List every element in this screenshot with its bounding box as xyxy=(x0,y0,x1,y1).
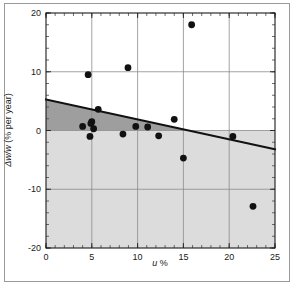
y-tick-label: 20 xyxy=(13,8,41,18)
data-point xyxy=(132,123,139,130)
y-axis-label: Δw/w (% per year) xyxy=(3,65,13,195)
x-tick-label: 25 xyxy=(270,252,280,262)
data-point xyxy=(171,116,178,123)
data-point xyxy=(144,124,151,131)
data-point xyxy=(188,21,195,28)
data-point xyxy=(155,132,162,139)
x-axis-label: u % xyxy=(152,258,168,268)
x-tick-label: 20 xyxy=(224,252,234,262)
data-point xyxy=(90,125,97,132)
x-tick-label: 5 xyxy=(89,252,94,262)
scatter-chart: Δw/w (% per year) u % 051015202520100-10… xyxy=(0,0,296,287)
data-point xyxy=(229,133,236,140)
data-point xyxy=(79,123,86,130)
data-point xyxy=(85,71,92,78)
x-tick-label: 15 xyxy=(178,252,188,262)
x-tick-label: 10 xyxy=(133,252,143,262)
data-point xyxy=(120,131,127,138)
data-point xyxy=(88,118,95,125)
y-tick-label: -20 xyxy=(13,243,41,253)
y-tick-label: -10 xyxy=(13,184,41,194)
data-point xyxy=(95,106,102,113)
data-point xyxy=(180,155,187,162)
data-point xyxy=(87,133,94,140)
data-point xyxy=(250,203,257,210)
data-point xyxy=(125,64,132,71)
y-tick-label: 0 xyxy=(13,126,41,136)
y-tick-label: 10 xyxy=(13,67,41,77)
x-tick-label: 0 xyxy=(43,252,48,262)
chart-canvas xyxy=(0,0,296,287)
